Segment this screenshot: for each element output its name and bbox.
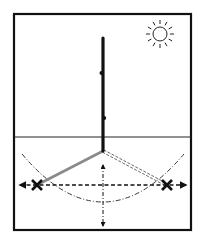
sun-icon [146, 20, 174, 48]
shadow-stick-diagram [0, 0, 202, 245]
second-shadow [102, 150, 167, 186]
shadow-stick [100, 38, 107, 151]
first-shadow [37, 151, 103, 185]
